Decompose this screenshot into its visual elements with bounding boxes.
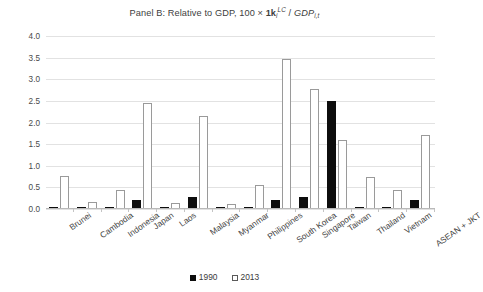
- bar-2013-vietnam[interactable]: [393, 190, 402, 209]
- bar-group: [241, 36, 269, 209]
- title-gdp: GDP: [294, 8, 314, 18]
- bar-2013-japan[interactable]: [143, 103, 152, 209]
- title-k-symbol: 1k: [266, 8, 276, 18]
- bar-2013-thailand[interactable]: [366, 177, 375, 209]
- x-axis-label-asean-jkt: ASEAN + JKT: [434, 210, 483, 248]
- x-axis-label-malaysia: Malaysia: [208, 210, 241, 237]
- bar-group: [379, 36, 407, 209]
- legend-swatch-icon: [190, 275, 196, 281]
- chart-title: Panel B: Relative to GDP, 100 × 1kiLC / …: [0, 6, 449, 19]
- bar-group: [129, 36, 157, 209]
- legend-entry-1990[interactable]: 1990: [190, 272, 218, 282]
- y-axis-tick-label: 2.5: [6, 96, 40, 105]
- bar-group: [46, 36, 74, 209]
- legend-label: 1990: [199, 272, 218, 282]
- y-axis-tick-label: 0.0: [6, 205, 40, 214]
- y-axis-tick-label: 4.0: [6, 32, 40, 41]
- bar-group: [268, 36, 296, 209]
- bar-2013-south-korea[interactable]: [282, 59, 291, 210]
- bar-2013-malaysia[interactable]: [199, 116, 208, 209]
- bar-2013-singapore[interactable]: [310, 89, 319, 209]
- x-axis-line: [46, 208, 435, 209]
- legend-label: 2013: [241, 272, 260, 282]
- bar-group: [185, 36, 213, 209]
- bar-group: [102, 36, 130, 209]
- y-axis-tick-label: 0.5: [6, 183, 40, 192]
- bar-group: [157, 36, 185, 209]
- bar-2013-indonesia[interactable]: [116, 190, 125, 209]
- y-axis-tick-label: 2.0: [6, 118, 40, 127]
- bar-group: [296, 36, 324, 209]
- bar-2013-taiwan[interactable]: [338, 140, 347, 209]
- bar-group: [324, 36, 352, 209]
- x-axis-label-brunei: Brunei: [68, 210, 94, 232]
- bar-group: [74, 36, 102, 209]
- bar-2013-asean-jkt[interactable]: [421, 135, 430, 209]
- title-k-subscript: i: [276, 12, 278, 19]
- y-axis-tick-label: 1.5: [6, 140, 40, 149]
- x-axis-label-laos: Laos: [178, 210, 199, 229]
- x-axis-label-vietnam: Vietnam: [402, 210, 433, 236]
- y-axis-tick-label: 3.0: [6, 75, 40, 84]
- x-axis-labels: BruneiCambodiaIndonesiaJapanLaosMalaysia…: [46, 210, 435, 268]
- y-axis-tick-label: 1.0: [6, 161, 40, 170]
- plot-area: [46, 36, 435, 209]
- x-axis-label-thailand: Thailand: [375, 210, 407, 237]
- bar-group: [213, 36, 241, 209]
- title-k-superscript: LC: [278, 6, 286, 13]
- title-slash: /: [286, 8, 294, 18]
- bar-group: [352, 36, 380, 209]
- y-axis-tick-label: 3.5: [6, 53, 40, 62]
- chart-legend: 19902013: [0, 272, 449, 282]
- legend-entry-2013[interactable]: 2013: [232, 272, 260, 282]
- legend-swatch-icon: [232, 275, 238, 281]
- bar-group: [407, 36, 435, 209]
- bar-2013-brunei[interactable]: [60, 176, 69, 209]
- title-gdp-subscript: i,t: [314, 12, 319, 19]
- bar-2013-philippines[interactable]: [255, 185, 264, 209]
- title-lead: Panel B: Relative to GDP, 100 ×: [130, 8, 266, 18]
- bar-1990-taiwan[interactable]: [327, 101, 336, 209]
